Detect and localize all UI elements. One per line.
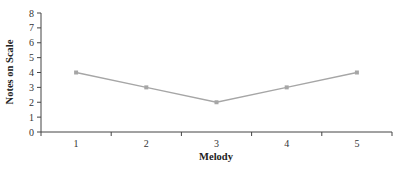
data-series xyxy=(74,71,359,105)
y-tick-label: 4 xyxy=(29,67,34,78)
y-tick-label: 1 xyxy=(29,112,34,123)
y-axis: 012345678 xyxy=(29,8,41,138)
data-point-marker xyxy=(144,85,148,89)
data-point-marker xyxy=(215,100,219,104)
y-tick-label: 6 xyxy=(29,37,34,48)
x-axis-title: Melody xyxy=(199,151,234,162)
y-axis-title: Notes on Scale xyxy=(4,39,15,104)
x-tick-label: 2 xyxy=(144,138,149,149)
data-point-marker xyxy=(285,85,289,89)
series-line xyxy=(76,73,357,103)
y-tick-label: 3 xyxy=(29,82,34,93)
y-tick-label: 2 xyxy=(29,97,34,108)
y-tick-label: 5 xyxy=(29,52,34,63)
line-chart: 012345678 12345 Notes on Scale Melody xyxy=(0,0,403,170)
x-axis: 12345 xyxy=(41,132,392,149)
x-tick-label: 4 xyxy=(284,138,289,149)
data-point-marker xyxy=(74,71,78,75)
data-point-marker xyxy=(355,71,359,75)
y-tick-label: 7 xyxy=(29,22,34,33)
x-tick-label: 3 xyxy=(214,138,219,149)
x-tick-label: 5 xyxy=(354,138,359,149)
y-tick-label: 0 xyxy=(29,127,34,138)
x-tick-label: 1 xyxy=(74,138,79,149)
y-tick-label: 8 xyxy=(29,8,34,19)
